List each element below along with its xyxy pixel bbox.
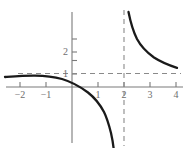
x-tick-label-neg1: −1 xyxy=(41,90,52,100)
plot-canvas xyxy=(0,0,187,148)
curve-right-branch xyxy=(129,12,178,68)
x-tick-label-3: 3 xyxy=(148,90,153,100)
y-tick-label-2: 2 xyxy=(54,47,68,57)
curve-left-branch xyxy=(5,76,114,148)
x-tick-label-neg2: −2 xyxy=(15,90,26,100)
y-tick-label-1: 1 xyxy=(54,69,68,79)
x-axis-ticks xyxy=(20,82,176,87)
x-tick-label-4: 4 xyxy=(174,90,179,100)
x-tick-label-1: 1 xyxy=(96,90,101,100)
y-axis-ticks xyxy=(72,39,77,74)
x-tick-label-2: 2 xyxy=(122,90,127,100)
function-graph-figure: −2 −1 1 2 3 4 2 1 xyxy=(0,0,187,148)
